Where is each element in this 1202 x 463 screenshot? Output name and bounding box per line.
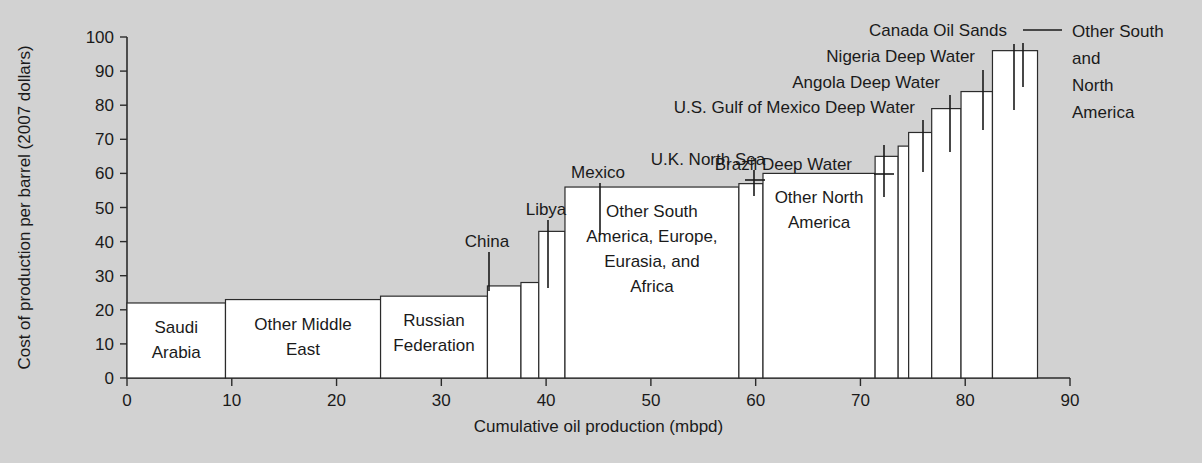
bar-rect[interactable]	[127, 303, 225, 378]
y-tick-label: 80	[95, 96, 114, 115]
callout-label-text: Angola Deep Water	[792, 73, 940, 92]
y-tick-label: 40	[95, 233, 114, 252]
y-axis-title: Cost of production per barrel (2007 doll…	[15, 45, 34, 369]
bar-inside-label: Saudi	[155, 318, 198, 337]
bar-9[interactable]: Other NorthAmerica	[763, 173, 875, 378]
bar-inside-label: Africa	[630, 277, 674, 296]
callout-china: China	[465, 232, 510, 291]
callout-label-text: and	[1072, 49, 1100, 68]
bar-inside-label: Federation	[393, 336, 474, 355]
bar-inside-label: Eurasia, and	[604, 252, 699, 271]
bar-inside-label: Other North	[775, 188, 864, 207]
oil-supply-cost-curve-chart: 0102030405060708090100010203040506070809…	[0, 0, 1202, 463]
x-tick-label: 40	[537, 391, 556, 410]
bar-2[interactable]: Other MiddleEast	[225, 300, 380, 378]
bar-inside-label: East	[286, 340, 320, 359]
bar-inside-label: Other Middle	[254, 315, 351, 334]
bar-rect[interactable]	[875, 156, 898, 378]
bar-rect[interactable]	[739, 184, 763, 378]
bar-11[interactable]	[898, 146, 908, 378]
y-tick-label: 20	[95, 301, 114, 320]
bar-inside-label: Arabia	[152, 343, 202, 362]
y-tick-label: 90	[95, 62, 114, 81]
bar-14[interactable]	[961, 92, 992, 378]
bar-rect[interactable]	[932, 109, 961, 378]
bar-inside-label: America, Europe,	[586, 227, 717, 246]
bar-3[interactable]: RussianFederation	[381, 296, 488, 378]
y-tick-label: 30	[95, 267, 114, 286]
callout-label-text: China	[465, 232, 510, 251]
bar-rect[interactable]	[521, 283, 539, 378]
bar-rect[interactable]	[539, 231, 565, 378]
bar-12[interactable]	[909, 132, 932, 378]
bar-rect[interactable]	[487, 286, 521, 378]
callout-label-text: North	[1072, 76, 1114, 95]
callout-label-text: Libya	[526, 200, 567, 219]
bar-rect[interactable]	[898, 146, 908, 378]
bar-5[interactable]	[521, 283, 539, 378]
callout-label-text: Canada Oil Sands	[869, 21, 1007, 40]
bar-10[interactable]	[875, 156, 898, 378]
y-tick-label: 0	[105, 369, 114, 388]
callout-other-south-and-north-america: Other SouthandNorthAmerica	[1023, 22, 1164, 122]
x-axis-title: Cumulative oil production (mbpd)	[474, 417, 723, 436]
bar-6[interactable]	[539, 231, 565, 378]
bar-1[interactable]: SaudiArabia	[127, 303, 225, 378]
x-tick-label: 60	[746, 391, 765, 410]
callout-label-text: Other South	[1072, 22, 1164, 41]
callout-label-text: Mexico	[571, 163, 625, 182]
bar-4[interactable]	[487, 286, 521, 378]
callout-label-text: America	[1072, 103, 1135, 122]
callout-label-text: Brazil Deep Water	[715, 155, 853, 174]
y-tick-label: 10	[95, 335, 114, 354]
x-tick-label: 10	[222, 391, 241, 410]
bar-13[interactable]	[932, 109, 961, 378]
x-tick-label: 50	[641, 391, 660, 410]
x-tick-label: 70	[851, 391, 870, 410]
y-tick-label: 50	[95, 199, 114, 218]
x-tick-label: 0	[122, 391, 131, 410]
bar-rect[interactable]	[992, 51, 1037, 378]
x-tick-label: 90	[1061, 391, 1080, 410]
callout-label-text: Nigeria Deep Water	[826, 47, 975, 66]
y-tick-label: 70	[95, 130, 114, 149]
bar-7[interactable]: Other SouthAmerica, Europe,Eurasia, andA…	[565, 187, 739, 378]
bar-8[interactable]	[739, 184, 763, 378]
callout-label-text: U.S. Gulf of Mexico Deep Water	[674, 98, 916, 117]
x-tick-label: 30	[432, 391, 451, 410]
bar-rect[interactable]	[961, 92, 992, 378]
x-tick-label: 20	[327, 391, 346, 410]
bar-inside-label: America	[788, 213, 851, 232]
y-tick-label: 60	[95, 164, 114, 183]
x-tick-label: 80	[956, 391, 975, 410]
bar-inside-label: Russian	[403, 311, 464, 330]
y-tick-label: 100	[86, 28, 114, 47]
bar-15[interactable]	[992, 51, 1037, 378]
bar-rect[interactable]	[909, 132, 932, 378]
bar-inside-label: Other South	[606, 202, 698, 221]
chart-canvas: 0102030405060708090100010203040506070809…	[0, 0, 1202, 463]
